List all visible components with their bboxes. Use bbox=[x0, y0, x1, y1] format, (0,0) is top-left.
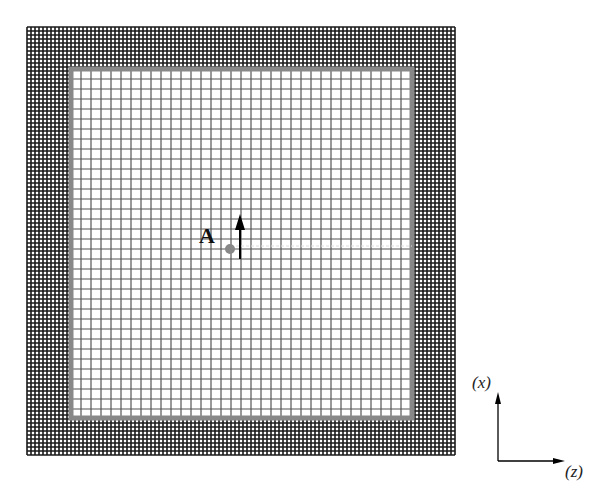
source-label: A bbox=[199, 223, 215, 248]
axis-z-label: (z) bbox=[565, 462, 583, 481]
grid-diagram: A (x) (z) bbox=[0, 0, 613, 501]
axis-x-label: (x) bbox=[472, 373, 491, 392]
source-point bbox=[225, 244, 235, 254]
axis-indicator: (x) (z) bbox=[472, 373, 583, 481]
arrow-right-icon bbox=[553, 458, 565, 464]
arrow-up-icon bbox=[495, 392, 501, 404]
